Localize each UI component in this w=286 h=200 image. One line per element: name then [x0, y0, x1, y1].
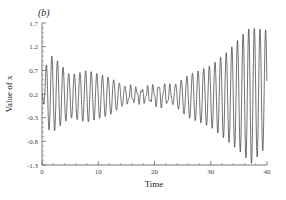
x-tick-label: 0: [40, 168, 44, 176]
y-tick-label: -0.8: [27, 138, 39, 146]
y-tick-label: 1.7: [29, 20, 38, 28]
x-tick-label: 30: [207, 168, 215, 176]
signal-line: [42, 28, 267, 163]
line-chart: -1.3-0.8-0.30.20.71.21.7 010203040 (b) T…: [0, 0, 286, 200]
y-tick-label: 0.2: [29, 91, 38, 99]
panel-label: (b): [38, 7, 50, 19]
x-tick-label: 10: [95, 168, 103, 176]
x-tick-label: 20: [151, 168, 159, 176]
y-tick-label: -1.3: [27, 162, 39, 170]
y-axis-title: Value of x: [4, 75, 14, 112]
y-axis-ticks: -1.3-0.8-0.30.20.71.21.7: [27, 20, 46, 170]
x-axis-ticks: 010203040: [40, 161, 271, 176]
y-tick-label: 0.7: [29, 67, 38, 75]
x-tick-label: 40: [264, 168, 272, 176]
y-tick-label: 1.2: [29, 43, 38, 51]
x-axis-title: Time: [145, 179, 164, 189]
y-tick-label: -0.3: [27, 114, 39, 122]
